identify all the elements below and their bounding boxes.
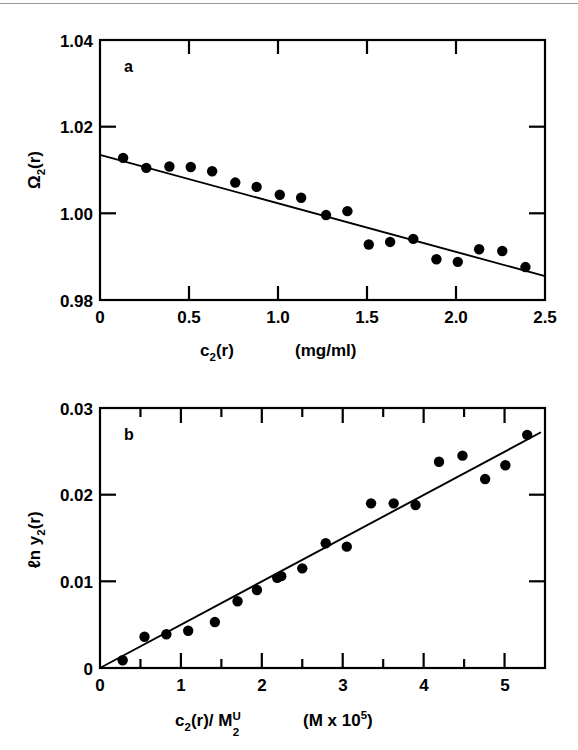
data-point [410,500,420,510]
panel-b-xtick-label-4: 4 [419,676,429,695]
panel-a-xlabel-tail: (r) [216,341,234,360]
data-point [251,182,261,192]
data-point [457,450,467,460]
panel-a-ytick-label-1: 1.02 [60,118,93,137]
panel-b-label: b [124,426,134,443]
panel-a-xlabel-units: (mg/ml) [295,341,356,360]
panel-b-xtick-label-2: 2 [257,676,266,695]
svg-text:(M x 105): (M x 105) [303,709,373,730]
data-point [474,244,484,254]
data-point [276,571,286,581]
svg-text:c2(r): c2(r) [200,341,234,363]
panel-b-xlabel-mid: (r)/ M [191,711,233,730]
data-point [230,177,240,187]
data-point [118,153,128,163]
page-top-rule [0,3,578,4]
panel-b-bottom-ticks [140,653,504,668]
panel-a-xtick-label-1: 0.5 [177,308,201,327]
data-point [385,237,395,247]
panel-b-ytick-label-3: 0 [84,660,93,679]
data-point [297,563,307,573]
panel-a-xtick-label-0: 0 [95,308,104,327]
panel-a-ylabel: Ω2(r) [25,151,47,189]
panel-b-ylabel-main: ℓn y [25,535,44,568]
panel-a-ytick-label-2: 1.00 [60,205,93,224]
panel-a-top-ticks [189,40,456,54]
data-point [453,257,463,267]
panel-a-ylabel-tail: (r) [25,151,44,169]
data-point [232,596,242,606]
panel-a-xtick-label-4: 2.0 [444,308,468,327]
panel-a-bottom-ticks [189,286,456,300]
panel-b-xlabel-sub2: 2 [233,726,239,738]
data-point [389,498,399,508]
data-point [431,254,441,264]
data-point [500,460,510,470]
panel-b-ytick-label-2: 0.01 [60,573,93,592]
panel-b-left-ticks [100,495,116,582]
data-point [296,193,306,203]
data-point [497,246,507,256]
data-point [364,239,374,249]
data-point [342,541,352,551]
panel-a-ytick-label-0: 1.04 [60,32,94,51]
figure-root: a 1.04 1.02 1.00 0.98 0 0.5 1.0 1.5 2.0 … [0,0,578,750]
panel-b-xtick-label-5: 5 [500,676,509,695]
data-point [161,629,171,639]
data-point [210,617,220,627]
panel-b-xtick-label-3: 3 [338,676,347,695]
panel-a-xtick-label-3: 1.5 [355,308,379,327]
panel-b-ylabel-tail: (r) [25,511,44,529]
panel-b-ytick-label-1: 0.02 [60,486,93,505]
panel-b-right-ticks [529,495,545,582]
data-point [480,474,490,484]
data-point [522,430,532,440]
panel-b-ylabel: ℓn y2(r) [25,511,47,568]
figure-canvas: a 1.04 1.02 1.00 0.98 0 0.5 1.0 1.5 2.0 … [0,0,578,750]
data-point [183,626,193,636]
panel-a-xtick-label-2: 1.0 [266,308,290,327]
panel-a-data-points [118,153,531,273]
panel-a-ytick-label-3: 0.98 [60,292,93,311]
svg-text:ℓn y2(r): ℓn y2(r) [25,511,47,568]
svg-text:Ω2(r): Ω2(r) [25,151,47,189]
data-point [275,190,285,200]
panel-a-xlabel-main: c [200,341,209,360]
panel-b-top-ticks [140,408,504,423]
data-point [207,166,217,176]
panel-b-xtick-label-0: 0 [95,676,104,695]
panel-b-frame [100,408,545,668]
data-point [520,262,530,272]
panel-b-xlabel-units-pre: (M x 10 [303,711,361,730]
panel-b-xlabel-units-post: ) [367,711,373,730]
data-point [117,655,127,665]
panel-a-label: a [124,58,133,75]
data-point [434,457,444,467]
data-point [139,632,149,642]
panel-a-left-ticks [100,127,116,214]
panel-a: a 1.04 1.02 1.00 0.98 0 0.5 1.0 1.5 2.0 … [25,32,557,363]
data-point [408,234,418,244]
data-point [321,538,331,548]
panel-b-ytick-label-0: 0.03 [60,400,93,419]
data-point [342,206,352,216]
panel-b-xtick-label-1: 1 [176,676,185,695]
data-point [252,585,262,595]
panel-b-xlabel: c2(r)/ MU2 (M x 105) [175,709,373,738]
panel-b-data-points [117,430,532,666]
panel-a-xtick-label-5: 2.5 [533,308,557,327]
panel-b-xlabel-sup2: U [232,710,240,722]
panel-b-xlabel-main: c [175,711,184,730]
panel-b: b 0.03 0.02 0.01 0 0 1 2 3 4 5 ℓn y2(r) … [25,400,545,738]
data-point [141,163,151,173]
data-point [164,161,174,171]
data-point [321,210,331,220]
panel-a-xlabel: c2(r) (mg/ml) [200,341,356,363]
panel-a-right-ticks [529,127,545,214]
panel-a-ylabel-main: Ω [25,175,44,189]
data-point [186,162,196,172]
data-point [366,498,376,508]
svg-text:c2(r)/ MU2: c2(r)/ MU2 [175,710,241,738]
